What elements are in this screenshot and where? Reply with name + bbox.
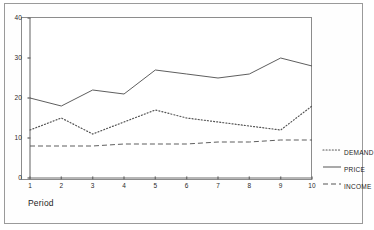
x-tick-label-5: 5: [148, 183, 162, 190]
x-tick-label-4: 4: [117, 183, 131, 190]
x-tick-label-2: 2: [54, 183, 68, 190]
series-line-income: [30, 140, 312, 146]
legend-label-income: INCOME: [344, 183, 372, 190]
x-tick-label-7: 7: [211, 183, 225, 190]
data-series-group: [30, 58, 312, 146]
y-tick-label-30: 30: [6, 55, 22, 62]
x-tick-label-8: 8: [242, 183, 256, 190]
series-line-price: [30, 58, 312, 106]
legend-swatch-price-icon: [322, 162, 342, 172]
y-tick-label-10: 10: [6, 135, 22, 142]
legend-swatch-income-icon: [322, 179, 342, 189]
axes-group: [28, 18, 313, 180]
y-tick-label-20: 20: [6, 95, 22, 102]
x-tick-label-1: 1: [23, 183, 37, 190]
x-tick-label-6: 6: [180, 183, 194, 190]
legend-swatch-demand-icon: [322, 145, 342, 155]
legend-label-demand: DEMAND: [344, 149, 374, 156]
x-tick-label-9: 9: [274, 183, 288, 190]
y-tick-label-40: 40: [6, 15, 22, 22]
y-tick-label-0: 0: [6, 175, 22, 182]
series-line-demand: [30, 106, 312, 134]
legend-label-price: PRICE: [344, 166, 365, 173]
x-tick-label-10: 10: [305, 183, 319, 190]
x-tick-label-3: 3: [86, 183, 100, 190]
x-axis-title: Period: [28, 198, 54, 208]
